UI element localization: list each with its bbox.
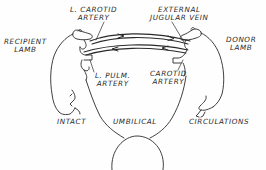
label-carotid-artery: CAROTID ARTERY (150, 70, 187, 86)
cross-circulation-diagram: L. CAROTID ARTERY EXTERNAL JUGULAR VEIN … (0, 0, 266, 170)
label-recipient-lamb: RECIPIENT LAMB (4, 38, 47, 54)
label-l-carotid-artery: L. CAROTID ARTERY (70, 6, 117, 22)
label-line: LAMB (4, 46, 47, 54)
label-line: ARTERY (150, 78, 187, 86)
label-line: LAMB (226, 44, 256, 52)
recipient-lamb-drawing (51, 30, 93, 115)
label-external-jugular-vein: EXTERNAL JUGULAR VEIN (150, 6, 209, 22)
label-circulations: CIRCULATIONS (189, 118, 249, 126)
diagram-artwork (0, 0, 266, 170)
label-umbilical: UMBILICAL (113, 118, 157, 126)
label-line: ARTERY (95, 80, 130, 88)
label-l-pulm-artery: L. PULM. ARTERY (95, 72, 130, 88)
placenta-semicircle (112, 136, 164, 170)
label-line: JUGULAR VEIN (150, 14, 209, 22)
cross-circulation-tubes (84, 34, 190, 55)
label-intact: INTACT (57, 118, 86, 126)
label-line: ARTERY (70, 14, 117, 22)
label-donor-lamb: DONOR LAMB (226, 36, 256, 52)
